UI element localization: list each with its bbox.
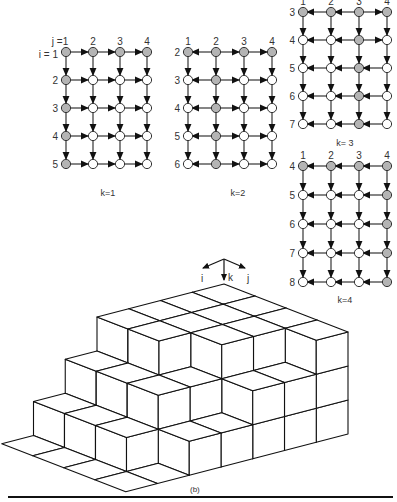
- node-open: [298, 219, 307, 228]
- col-label: 3: [356, 150, 362, 161]
- node-shaded: [239, 47, 248, 56]
- node-shaded: [382, 190, 391, 199]
- node-shaded: [382, 219, 391, 228]
- node-open: [183, 103, 192, 112]
- node-shaded: [354, 35, 363, 44]
- node-open: [298, 119, 307, 128]
- row-label: 2: [52, 75, 58, 86]
- col-label: 4: [269, 36, 275, 47]
- node-shaded: [61, 75, 70, 84]
- col-label: 2: [328, 150, 334, 161]
- node-shaded: [382, 277, 391, 286]
- node-shaded: [354, 63, 363, 72]
- row-label: i = 1: [39, 49, 59, 60]
- axis-k-label: k: [228, 272, 234, 283]
- node-open: [298, 35, 307, 44]
- row-label: 7: [289, 119, 295, 130]
- row-label: 4: [289, 161, 295, 172]
- node-open: [298, 248, 307, 257]
- node-open: [298, 63, 307, 72]
- node-open: [115, 159, 124, 168]
- axis-i-label: i: [201, 273, 203, 284]
- col-label: 2: [213, 36, 219, 47]
- node-shaded: [211, 75, 220, 84]
- node-open: [115, 103, 124, 112]
- row-label: 5: [289, 63, 295, 74]
- node-open: [142, 159, 151, 168]
- node-shaded: [267, 47, 276, 56]
- row-label: 3: [174, 75, 180, 86]
- row-label: 6: [174, 159, 180, 170]
- node-shaded: [211, 103, 220, 112]
- node-open: [354, 190, 363, 199]
- node-open: [239, 75, 248, 84]
- node-open: [239, 103, 248, 112]
- node-open: [326, 248, 335, 257]
- dependency-grids: j =1234i = 12345k=1123423456k=2123434567…: [39, 0, 392, 305]
- node-shaded: [326, 161, 335, 170]
- node-open: [354, 219, 363, 228]
- node-shaded: [354, 161, 363, 170]
- node-open: [142, 75, 151, 84]
- node-open: [142, 103, 151, 112]
- node-shaded: [183, 47, 192, 56]
- node-open: [354, 248, 363, 257]
- axis-j-label: j: [246, 273, 249, 284]
- col-label: 4: [384, 0, 390, 7]
- col-label: 3: [356, 0, 362, 7]
- row-label: 3: [289, 7, 295, 18]
- col-label: 1: [300, 150, 306, 161]
- row-label: 5: [174, 131, 180, 142]
- node-shaded: [61, 47, 70, 56]
- node-shaded: [61, 131, 70, 140]
- node-shaded: [88, 47, 97, 56]
- node-shaded: [382, 248, 391, 257]
- node-shaded: [354, 91, 363, 100]
- node-open: [382, 35, 391, 44]
- node-open: [183, 75, 192, 84]
- grid-caption: k=4: [338, 295, 353, 305]
- grid-k4: 123445678k=4: [289, 150, 391, 305]
- node-open: [298, 91, 307, 100]
- grid-caption: k=2: [231, 188, 246, 198]
- node-open: [115, 131, 124, 140]
- col-label: 2: [328, 0, 334, 7]
- row-label: 8: [289, 277, 295, 288]
- col-label: 1: [300, 0, 306, 7]
- node-open: [326, 119, 335, 128]
- node-open: [326, 219, 335, 228]
- node-shaded: [61, 103, 70, 112]
- node-open: [267, 103, 276, 112]
- node-shaded: [326, 7, 335, 16]
- node-shaded: [211, 47, 220, 56]
- node-open: [298, 190, 307, 199]
- row-label: 7: [289, 248, 295, 259]
- node-shaded: [115, 47, 124, 56]
- node-shaded: [382, 7, 391, 16]
- ijk-axes-glyph: i k j: [201, 259, 249, 284]
- node-open: [183, 159, 192, 168]
- node-open: [115, 75, 124, 84]
- col-label: 3: [117, 36, 123, 47]
- row-label: 3: [52, 103, 58, 114]
- grid-k3: 123434567k= 3: [289, 0, 391, 148]
- grid-k1: j =1234i = 12345k=1: [39, 36, 152, 198]
- node-open: [267, 131, 276, 140]
- node-open: [267, 75, 276, 84]
- node-shaded: [211, 131, 220, 140]
- node-open: [239, 131, 248, 140]
- node-shaded: [354, 7, 363, 16]
- col-label: 3: [241, 36, 247, 47]
- node-shaded: [298, 7, 307, 16]
- node-shaded: [61, 159, 70, 168]
- node-open: [326, 277, 335, 286]
- node-open: [239, 159, 248, 168]
- row-label: 6: [289, 91, 295, 102]
- col-label: 1: [185, 36, 191, 47]
- node-open: [326, 63, 335, 72]
- node-open: [88, 75, 97, 84]
- node-open: [183, 131, 192, 140]
- col-label: j =1: [51, 36, 69, 47]
- node-shaded: [382, 161, 391, 170]
- node-open: [298, 277, 307, 286]
